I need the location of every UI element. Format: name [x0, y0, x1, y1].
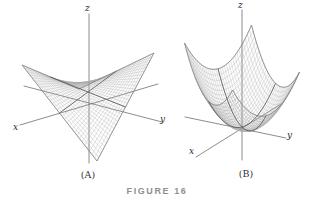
surface-edge	[252, 25, 300, 87]
surface-edge	[233, 72, 300, 116]
surface-plots-canvas	[0, 0, 314, 209]
panel-b-z-axis-label: z	[238, 0, 243, 11]
mesh-line	[252, 25, 300, 87]
panel-a-z-axis-label: z	[85, 3, 90, 14]
panel-a	[20, 14, 162, 163]
panel-b-x-axis-label: x	[189, 146, 194, 157]
panel-b	[185, 10, 300, 160]
panel-b-label: (B)	[231, 168, 261, 179]
figure-caption: FIGURE 16	[0, 186, 314, 196]
panel-b-y-axis-label: y	[287, 130, 292, 141]
panel-a-label: (A)	[73, 169, 103, 180]
mesh-line	[233, 72, 300, 116]
figure-16: x y z x y z (A) (B) FIGURE 16	[0, 0, 314, 209]
panel-a-y-axis-label: y	[160, 114, 165, 125]
panel-a-x-axis-label: x	[13, 122, 18, 133]
mesh-line	[245, 39, 293, 101]
